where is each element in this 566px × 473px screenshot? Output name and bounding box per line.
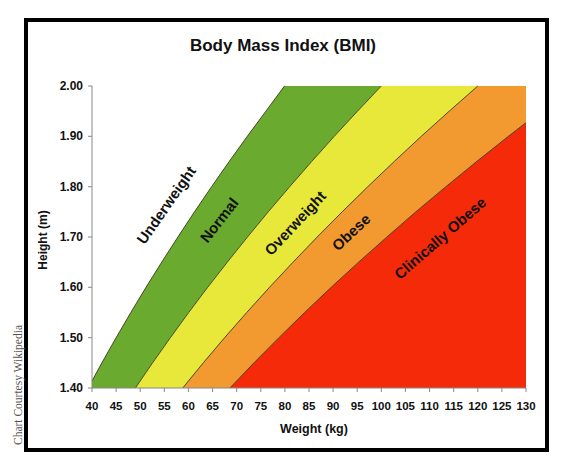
x-tick-label: 70 — [230, 400, 243, 412]
y-tick-labels: 2.00 1.90 1.80 1.70 1.60 1.50 1.40 — [60, 79, 84, 395]
x-tick-label: 120 — [468, 400, 487, 412]
x-tick-label: 50 — [134, 400, 147, 412]
y-axis-label: Height (m) — [36, 210, 50, 269]
x-axis-label: Weight (kg) — [280, 422, 348, 436]
x-tick-label: 95 — [351, 400, 364, 412]
x-tick-label: 90 — [327, 400, 340, 412]
y-tick-label: 1.40 — [60, 381, 84, 395]
y-tick-label: 2.00 — [60, 79, 84, 93]
x-tick-label: 125 — [492, 400, 512, 412]
y-tick-label: 1.50 — [60, 331, 84, 345]
y-tick-label: 1.80 — [60, 180, 84, 194]
y-tick-label: 1.70 — [60, 230, 84, 244]
y-tick-label: 1.90 — [60, 129, 84, 143]
x-tick-label: 55 — [158, 400, 171, 412]
x-tick-label: 130 — [516, 400, 535, 412]
y-tick-label: 1.60 — [60, 280, 84, 294]
x-tick-label: 60 — [182, 400, 195, 412]
x-tick-label: 85 — [303, 400, 316, 412]
x-tick-labels: 40 45 50 55 60 65 70 75 80 85 90 95 100 … — [86, 400, 536, 412]
x-tick-label: 115 — [444, 400, 463, 412]
x-tick-label: 110 — [420, 400, 439, 412]
x-tick-label: 75 — [254, 400, 267, 412]
x-tick-label: 65 — [206, 400, 219, 412]
x-tick-label: 80 — [279, 400, 292, 412]
chart-credit: Chart Courtesy Wikipedia — [12, 325, 24, 445]
x-tick-label: 45 — [110, 400, 123, 412]
x-tick-label: 105 — [396, 400, 416, 412]
x-tick-label: 40 — [86, 400, 99, 412]
x-tick-label: 100 — [372, 400, 391, 412]
